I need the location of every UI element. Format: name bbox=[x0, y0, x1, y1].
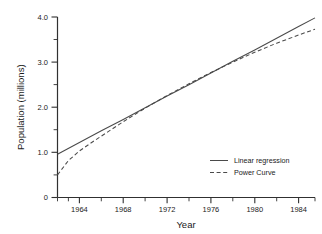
y-tick-label: 4.0 bbox=[38, 13, 48, 22]
x-tick-label: 1972 bbox=[159, 205, 176, 214]
x-tick-label: 1976 bbox=[203, 205, 220, 214]
y-tick-label: 3.0 bbox=[38, 58, 48, 67]
figure-background bbox=[0, 0, 322, 234]
y-tick-label: 1.0 bbox=[38, 148, 48, 157]
y-tick-label: 2.0 bbox=[38, 103, 48, 112]
x-tick-label: 1984 bbox=[290, 205, 307, 214]
y-axis-title: Population (millions) bbox=[15, 64, 26, 150]
chart-canvas: 4.0 3.0 2.0 1.0 0 Population (millions) bbox=[0, 0, 322, 234]
legend-label-power-curve: Power Curve bbox=[234, 168, 276, 177]
x-axis-title: Year bbox=[176, 219, 195, 230]
x-tick-label: 1968 bbox=[115, 205, 132, 214]
y-tick-label: 0 bbox=[44, 193, 48, 202]
x-tick-label: 1980 bbox=[246, 205, 263, 214]
legend-label-linear-regression: Linear regression bbox=[234, 156, 290, 165]
x-tick-label: 1964 bbox=[71, 205, 88, 214]
chart-figure: 4.0 3.0 2.0 1.0 0 Population (millions) bbox=[0, 0, 322, 234]
